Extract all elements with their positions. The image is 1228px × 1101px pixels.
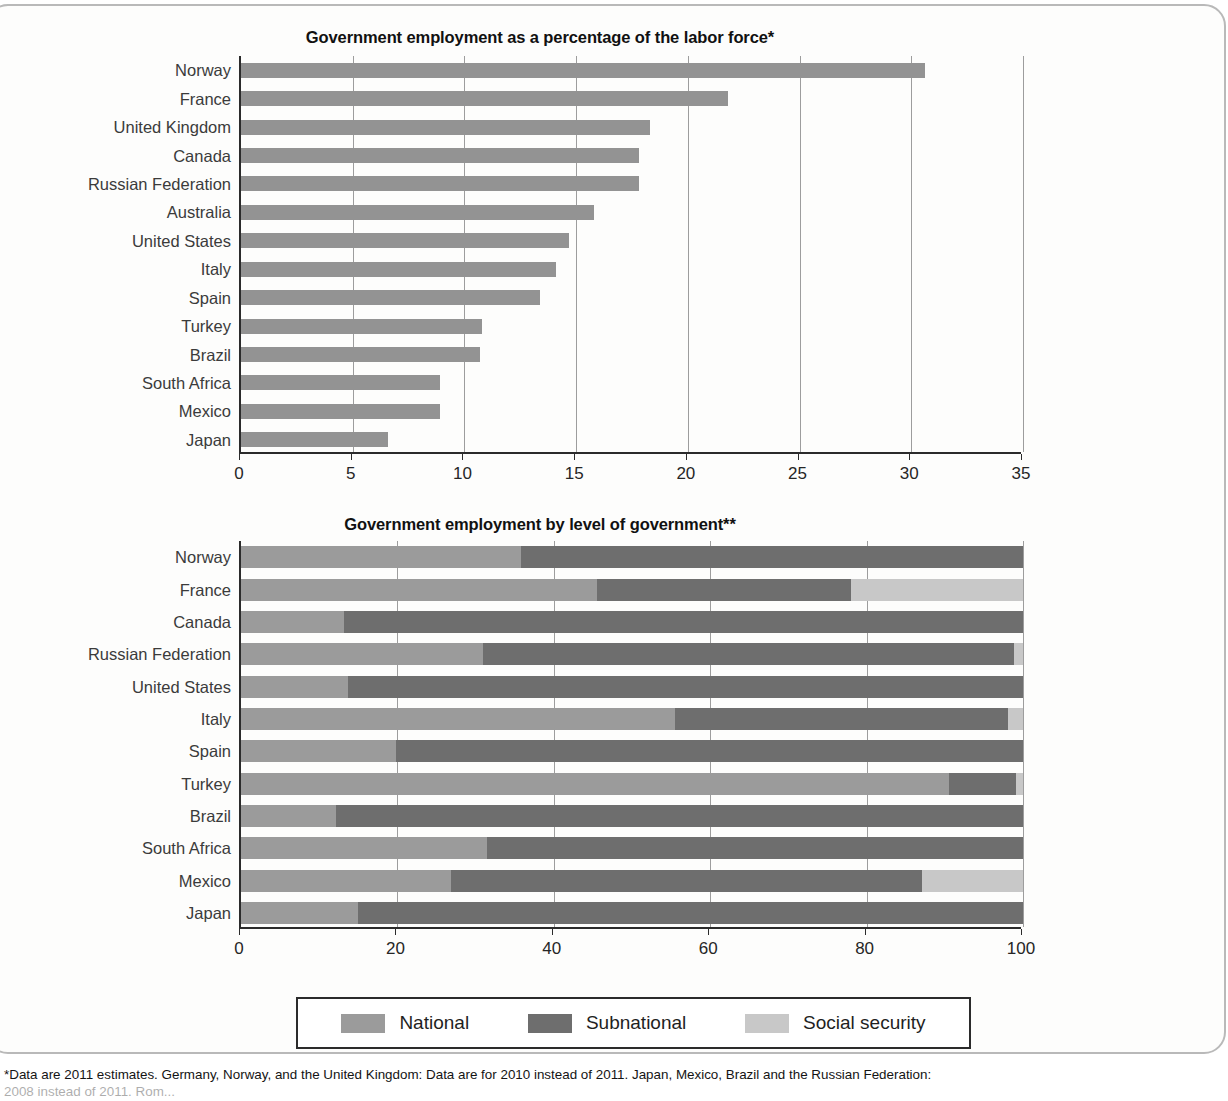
legend-item-subnational: Subnational — [528, 1012, 686, 1034]
stacked-bar-row — [241, 546, 1021, 568]
gridline — [911, 56, 912, 452]
bar-segment-subnational — [344, 611, 1023, 633]
plot-area — [239, 541, 1021, 929]
bar — [241, 347, 480, 362]
bar-segment-national — [241, 740, 396, 762]
bar-segment-subnational — [675, 708, 1008, 730]
legend-swatch-icon — [341, 1014, 385, 1033]
bar-segment-subnational — [358, 902, 1023, 924]
category-label: France — [180, 89, 231, 108]
axis-tick-label: 25 — [788, 464, 807, 484]
bar — [241, 432, 388, 447]
category-label: Norway — [175, 61, 231, 80]
category-label: Mexico — [179, 402, 231, 421]
axis-tick-label: 5 — [346, 464, 355, 484]
bar-segment-social-security — [851, 579, 1023, 601]
axis-tick-label: 20 — [676, 464, 695, 484]
bar-segment-subnational — [336, 805, 1023, 827]
bar — [241, 148, 639, 163]
stacked-bar-row — [241, 611, 1021, 633]
bar-segment-national — [241, 902, 358, 924]
axis-tick — [395, 929, 396, 935]
axis-tick-label: 40 — [542, 939, 561, 959]
bar-segment-national — [241, 870, 451, 892]
bar — [241, 233, 569, 248]
bar-segment-national — [241, 676, 348, 698]
category-label: Japan — [186, 430, 231, 449]
bar — [241, 404, 440, 419]
bar — [241, 120, 650, 135]
bar-segment-social-security — [1016, 773, 1023, 795]
legend-label: Social security — [803, 1012, 926, 1034]
bar-segment-subnational — [348, 676, 1023, 698]
bar — [241, 91, 728, 106]
bar-segment-national — [241, 643, 483, 665]
category-label: France — [180, 580, 231, 599]
bar-segment-national — [241, 837, 487, 859]
axis-tick — [909, 454, 910, 460]
category-label: Australia — [167, 203, 231, 222]
footnote-line-2: 2008 instead of 2011. Rom... — [4, 1083, 1219, 1100]
stacked-bar-row — [241, 773, 1021, 795]
category-label: Mexico — [179, 871, 231, 890]
bar — [241, 375, 440, 390]
bar-segment-subnational — [597, 579, 851, 601]
axis-tick — [865, 929, 866, 935]
bar-segment-subnational — [949, 773, 1016, 795]
axis-tick-label: 15 — [565, 464, 584, 484]
legend-swatch-icon — [528, 1014, 572, 1033]
axis-tick-label: 10 — [453, 464, 472, 484]
stacked-bar-row — [241, 643, 1021, 665]
category-label: Brazil — [190, 806, 231, 825]
category-label: Spain — [189, 742, 231, 761]
bar-segment-subnational — [521, 546, 1023, 568]
gridline — [576, 56, 577, 452]
chart-2-plot: 020406080100NorwayFranceCanadaRussian Fe… — [0, 541, 1228, 971]
axis-tick-label: 0 — [234, 939, 243, 959]
axis-tick-label: 20 — [386, 939, 405, 959]
bar-segment-national — [241, 546, 521, 568]
gridline — [464, 56, 465, 452]
axis-tick — [574, 454, 575, 460]
category-label: Russian Federation — [88, 174, 231, 193]
axis-tick — [552, 929, 553, 935]
legend-swatch-icon — [745, 1014, 789, 1033]
category-label: Canada — [173, 612, 231, 631]
category-label: Norway — [175, 548, 231, 567]
gridline — [1023, 56, 1024, 452]
bar-segment-social-security — [922, 870, 1023, 892]
axis-tick — [708, 929, 709, 935]
legend-item-national: National — [341, 1012, 469, 1034]
axis-tick — [351, 454, 352, 460]
axis-tick-label: 60 — [699, 939, 718, 959]
bar-segment-subnational — [487, 837, 1023, 859]
chart-2-title: Government employment by level of govern… — [30, 515, 1050, 534]
axis-tick — [239, 454, 240, 460]
category-label: Japan — [186, 903, 231, 922]
axis-tick — [239, 929, 240, 935]
category-axis-labels: NorwayFranceUnited KingdomCanadaRussian … — [0, 56, 239, 454]
stacked-bar-row — [241, 805, 1021, 827]
bar — [241, 319, 482, 334]
category-label: Turkey — [181, 774, 231, 793]
bar-segment-national — [241, 579, 597, 601]
bar — [241, 205, 594, 220]
stacked-bar-row — [241, 708, 1021, 730]
bar-segment-subnational — [483, 643, 1013, 665]
bar — [241, 290, 540, 305]
category-label: Canada — [173, 146, 231, 165]
stacked-bar-row — [241, 837, 1021, 859]
stacked-bar-row — [241, 740, 1021, 762]
category-label: Russian Federation — [88, 645, 231, 664]
axis-tick — [1021, 454, 1022, 460]
stacked-bar-row — [241, 676, 1021, 698]
category-label: Italy — [201, 709, 231, 728]
bar-segment-national — [241, 805, 336, 827]
legend-item-social-security: Social security — [745, 1012, 926, 1034]
chart-1-title: Government employment as a percentage of… — [30, 28, 1050, 47]
category-label: United States — [132, 677, 231, 696]
axis-tick-label: 80 — [855, 939, 874, 959]
category-label: United Kingdom — [114, 118, 231, 137]
bar — [241, 63, 925, 78]
axis-tick — [798, 454, 799, 460]
